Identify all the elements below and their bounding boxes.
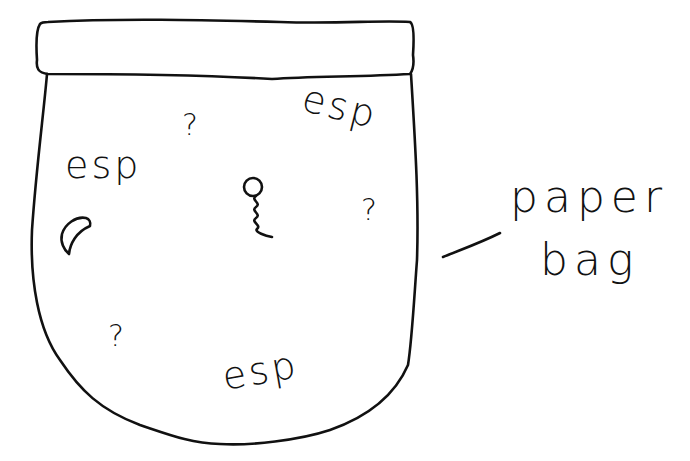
- bag-lid: [36, 20, 413, 79]
- esp-label-bottom: esp: [219, 342, 302, 399]
- esp-label-top-right: esp: [298, 76, 383, 137]
- question-mark-top: ?: [182, 107, 198, 142]
- paper-bag-diagram: esp esp esp ? ? ? paper bag: [0, 0, 690, 461]
- question-mark-bottom-left: ?: [108, 318, 124, 353]
- caption-paper: paper: [510, 171, 668, 222]
- caption-bag: bag: [540, 234, 639, 285]
- question-mark-right: ?: [361, 192, 377, 227]
- esp-label-left: esp: [65, 143, 141, 187]
- caption-pointer-line: [443, 233, 500, 257]
- crescent-icon: [61, 218, 90, 254]
- sperm-icon: [244, 178, 272, 237]
